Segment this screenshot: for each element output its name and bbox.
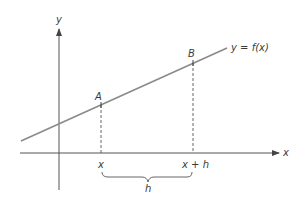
- x-plus-h-tick-label: x + h: [181, 159, 209, 170]
- y-axis-label: y: [55, 14, 63, 25]
- brace-h: [102, 172, 192, 182]
- point-b-label: B: [188, 48, 195, 59]
- point-a-label: A: [94, 91, 102, 102]
- function-line: [21, 48, 227, 141]
- curve-label: y = f(x): [230, 42, 269, 53]
- diagram-canvas: y x y = f(x) A B x x + h h: [0, 0, 300, 198]
- x-axis-label: x: [282, 147, 289, 158]
- x-tick-label: x: [97, 159, 104, 170]
- brace-label: h: [145, 183, 151, 194]
